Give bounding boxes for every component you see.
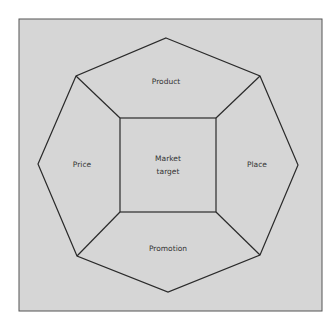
segment-price-label: Price <box>73 160 92 169</box>
segment-product-label: Product <box>152 77 181 86</box>
marketing-mix-diagram: Product Price Place Promotion Market tar… <box>0 0 335 323</box>
segment-promotion-label: Promotion <box>149 244 187 253</box>
segment-place-label: Place <box>247 160 267 169</box>
center-label-line1: Market <box>155 154 181 163</box>
diagram-frame <box>19 19 322 311</box>
center-label-line2: target <box>157 167 180 176</box>
